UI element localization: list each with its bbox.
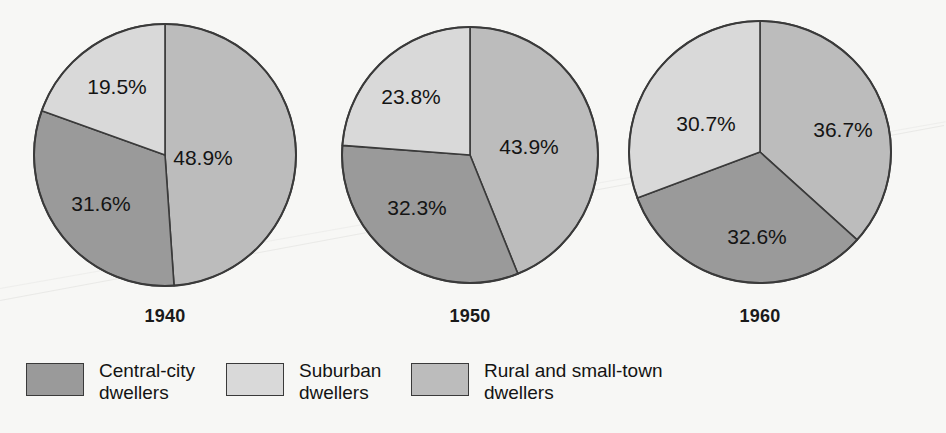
legend-item-rural-and-small-town-dwellers[interactable]: Rural and small-town dwellers — [411, 360, 711, 405]
year-label-1940: 1940 — [0, 306, 330, 327]
legend-swatch-central-city-dwellers — [26, 363, 84, 396]
pie-chart-1940: 48.9%31.6%19.5% — [34, 24, 296, 286]
pie-chart-1950: 43.9%32.3%23.8% — [342, 27, 598, 283]
legend-swatch-suburban-dwellers — [226, 363, 284, 396]
year-label-1960: 1960 — [595, 306, 925, 327]
pie-slice-label-1960-rural: 36.7% — [813, 118, 873, 141]
legend-item-central-city-dwellers[interactable]: Central-city dwellers — [26, 360, 226, 405]
pie-slice-label-1940-central: 31.6% — [71, 192, 131, 215]
pie-slice-label-1960-suburban: 30.7% — [676, 112, 736, 135]
pie-slice-label-1950-rural: 43.9% — [499, 135, 559, 158]
legend-swatch-rural-and-small-town-dwellers — [411, 363, 469, 396]
pie-slice-label-1950-suburban: 23.8% — [381, 85, 441, 108]
legend-item-suburban-dwellers[interactable]: Suburban dwellers — [226, 360, 411, 405]
pie-slice-label-1940-rural: 48.9% — [173, 146, 233, 169]
legend-label-suburban-dwellers: Suburban dwellers — [299, 360, 381, 405]
chart-legend: Central-city dwellersSuburban dwellersRu… — [26, 360, 896, 405]
legend-label-central-city-dwellers: Central-city dwellers — [99, 360, 195, 405]
legend-label-rural-and-small-town-dwellers: Rural and small-town dwellers — [484, 360, 662, 405]
pie-slice-label-1950-central: 32.3% — [387, 196, 447, 219]
year-label-1950: 1950 — [305, 306, 635, 327]
pie-slice-label-1960-central: 32.6% — [727, 225, 787, 248]
pie-slice-label-1940-suburban: 19.5% — [87, 75, 147, 98]
pie-chart-1960: 36.7%32.6%30.7% — [629, 21, 891, 283]
pies-layer: 48.9%31.6%19.5%43.9%32.3%23.8%36.7%32.6%… — [0, 0, 916, 345]
